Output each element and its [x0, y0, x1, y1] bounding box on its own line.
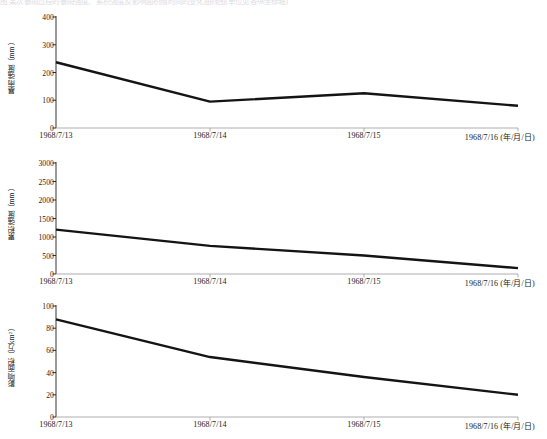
x-tick-label: 1968/7/14: [193, 131, 226, 140]
plot-area-1: 暴雨强度（mm） 0100200300400 1968/7/131968/7/1…: [0, 6, 547, 152]
figure-page: 图 某次暴雨过程的暴雨强度、累积强度及影响面积随时间的变化曲线图(单位见各纵坐标…: [0, 0, 547, 439]
x-tick-label: 1968/7/14: [193, 420, 226, 429]
x-tick-label: 1968/7/15: [347, 277, 380, 286]
x-tick-labels-3: 1968/7/131968/7/141968/7/151968/7/16 (年/…: [0, 420, 547, 438]
x-tick-label: 1968/7/15: [347, 131, 380, 140]
data-series-line-2-0: [56, 230, 518, 268]
x-tick-label: 1968/7/16 (年/月/日): [465, 277, 535, 288]
chart-svg-3: [0, 295, 547, 439]
data-series-line-1-0: [56, 62, 518, 106]
chart-panel-rain-intensity: 暴雨强度（mm） 0100200300400 1968/7/131968/7/1…: [0, 6, 547, 152]
x-tick-label: 1968/7/16 (年/月/日): [465, 131, 535, 142]
x-tick-label: 1968/7/16 (年/月/日): [465, 420, 535, 431]
plot-area-2: 累积强度（mm） 050010001500200025003000 1968/7…: [0, 152, 547, 298]
x-tick-label: 1968/7/13: [39, 277, 72, 286]
x-tick-labels-1: 1968/7/131968/7/141968/7/151968/7/16 (年/…: [0, 131, 547, 149]
chart-panel-cumulative-intensity: 累积强度（mm） 050010001500200025003000 1968/7…: [0, 152, 547, 298]
x-tick-label: 1968/7/14: [193, 277, 226, 286]
x-tick-label: 1968/7/13: [39, 420, 72, 429]
x-tick-label: 1968/7/13: [39, 131, 72, 140]
plot-area-3: 影响面积（万km²） 020406080100 1968/7/131968/7/…: [0, 295, 547, 439]
data-series-line-3-0: [56, 319, 518, 394]
chart-panel-affected-area: 影响面积（万km²） 020406080100 1968/7/131968/7/…: [0, 295, 547, 439]
x-tick-label: 1968/7/15: [347, 420, 380, 429]
x-tick-labels-2: 1968/7/131968/7/141968/7/151968/7/16 (年/…: [0, 277, 547, 295]
